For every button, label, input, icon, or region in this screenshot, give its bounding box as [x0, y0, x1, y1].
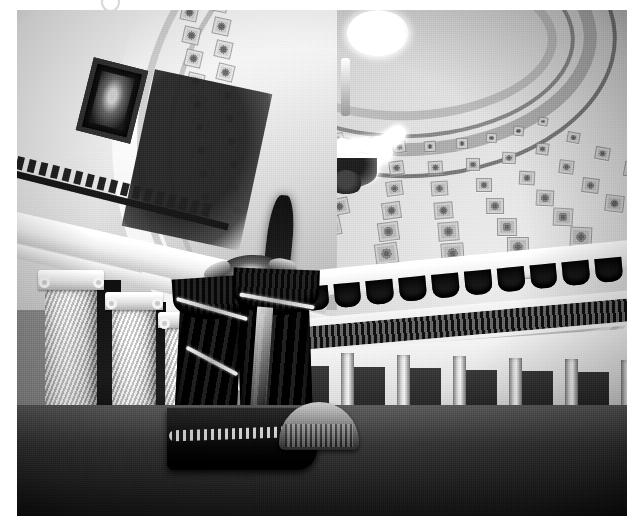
soffit-coffer [183, 48, 203, 68]
valance [464, 269, 493, 295]
portrait-canvas [89, 71, 135, 131]
soffit-coffer [209, 10, 229, 14]
capital-volute [39, 277, 50, 288]
soffit-coffer [181, 25, 201, 45]
valance [562, 260, 591, 286]
soffit-coffer [211, 16, 231, 36]
soffit-coffer [215, 62, 235, 82]
photograph [17, 10, 627, 516]
capital-volute [93, 277, 104, 288]
valance [398, 276, 427, 302]
soffit-coffer [213, 39, 233, 59]
soffit-coffer [179, 10, 199, 23]
valance [595, 257, 624, 283]
page-canvas [0, 0, 641, 530]
valance [529, 263, 558, 289]
valance [366, 279, 395, 305]
valance [431, 272, 460, 298]
valance [497, 266, 526, 292]
